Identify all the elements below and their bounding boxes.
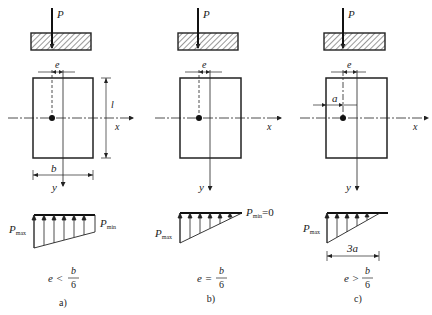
footing-elevation: P bbox=[178, 8, 238, 50]
pmax-label: Pmax bbox=[154, 227, 172, 240]
y-axis-label: y bbox=[198, 181, 204, 193]
b-label: b bbox=[51, 162, 57, 174]
panel-b: P e x y Pmax bbox=[154, 8, 281, 305]
load-label: P bbox=[347, 8, 355, 20]
svg-text:b: b bbox=[365, 265, 370, 276]
y-axis-label: y bbox=[345, 181, 351, 193]
x-axis-label: x bbox=[412, 121, 418, 132]
pressure-diagram: Pmax Pmin=0 bbox=[154, 206, 274, 243]
svg-text:6: 6 bbox=[71, 279, 76, 290]
footing-elevation: P bbox=[31, 8, 91, 50]
y-axis-label: y bbox=[51, 181, 57, 193]
pressure-diagram: Pmax Pmin bbox=[8, 215, 116, 248]
svg-text:b: b bbox=[219, 265, 224, 276]
svg-text:e >: e > bbox=[344, 272, 359, 284]
condition-formula: e = b 6 bbox=[197, 265, 227, 290]
condition-formula: e > b 6 bbox=[344, 265, 373, 290]
footing-plan: e x y bbox=[155, 59, 281, 193]
e-label: e bbox=[347, 59, 352, 70]
a-label: a bbox=[332, 92, 338, 104]
l-label: l bbox=[111, 99, 114, 110]
panel-c: P e a x y bbox=[300, 8, 428, 305]
footing-elevation: P bbox=[324, 8, 385, 50]
condition-formula: e < b 6 bbox=[48, 265, 79, 290]
pmin-label: Pmin bbox=[99, 217, 116, 230]
caption: c) bbox=[354, 293, 362, 305]
panel-a: P e l x b bbox=[8, 8, 133, 309]
pmax-label: Pmax bbox=[8, 223, 26, 236]
svg-text:6: 6 bbox=[365, 279, 370, 290]
load-point bbox=[49, 115, 55, 121]
eccentric-load-diagram: P e l x b bbox=[0, 0, 432, 315]
footing-plan: e l x b y bbox=[8, 59, 133, 193]
3a-label: 3a bbox=[346, 242, 359, 254]
x-axis-label: x bbox=[114, 121, 120, 132]
svg-text:b: b bbox=[71, 265, 76, 276]
load-label: P bbox=[56, 8, 64, 20]
svg-text:e =: e = bbox=[197, 272, 212, 284]
svg-text:6: 6 bbox=[219, 279, 224, 290]
load-label: P bbox=[202, 8, 210, 20]
caption: b) bbox=[207, 293, 215, 305]
svg-text:e <: e < bbox=[48, 272, 63, 284]
caption: a) bbox=[59, 297, 67, 309]
e-label: e bbox=[55, 59, 60, 70]
pressure-diagram: Pmax 3a bbox=[302, 213, 388, 261]
pmax-label: Pmax bbox=[302, 222, 320, 235]
x-axis-label: x bbox=[266, 121, 272, 132]
e-label: e bbox=[202, 59, 207, 70]
footing-plan: e a x y bbox=[300, 59, 428, 193]
pmin-label: Pmin=0 bbox=[245, 206, 274, 219]
